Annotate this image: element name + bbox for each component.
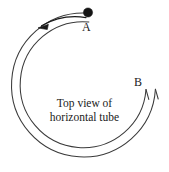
label-point-b: B: [134, 76, 142, 88]
figure-caption: Top view of horizontal tube: [0, 97, 169, 124]
tube-inner-wall: [20, 22, 146, 148]
ball-at-a: [83, 8, 92, 17]
label-point-a: A: [82, 21, 91, 33]
tube-figure: A B Top view of horizontal tube: [0, 0, 169, 172]
caption-line-2: horizontal tube: [0, 111, 169, 125]
caption-line-1: Top view of: [0, 97, 169, 111]
